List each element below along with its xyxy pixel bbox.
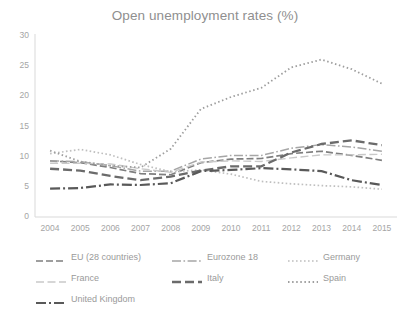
x-tick-label: 2013 (305, 223, 339, 233)
legend-label: Eurozone 18 (207, 252, 258, 262)
x-tick-label: 2007 (124, 223, 158, 233)
legend-item[interactable]: Eurozone 18 (172, 246, 258, 267)
legend-label: EU (28 countries) (71, 252, 141, 262)
chart-legend: EU (28 countries)Eurozone 18GermanyFranc… (36, 246, 396, 309)
legend-item[interactable]: Italy (172, 267, 224, 288)
x-tick-label: 2008 (154, 223, 188, 233)
legend-item[interactable]: Spain (288, 267, 346, 288)
legend-item[interactable]: France (36, 267, 99, 288)
legend-row: FranceItalySpain (36, 267, 396, 288)
y-tick-label: 25 (9, 60, 29, 70)
legend-swatch-icon (36, 252, 66, 262)
legend-item[interactable]: Germany (288, 246, 360, 267)
x-tick-label: 2004 (33, 223, 67, 233)
legend-swatch-icon (36, 294, 66, 304)
legend-row: United Kingdom (36, 288, 396, 309)
x-tick-label: 2015 (365, 223, 399, 233)
legend-item[interactable]: United Kingdom (36, 288, 135, 309)
y-tick-label: 15 (9, 121, 29, 131)
legend-label: United Kingdom (71, 294, 135, 304)
series-line (50, 168, 382, 189)
legend-swatch-icon (172, 273, 202, 283)
figure-caption (0, 308, 410, 317)
legend-label: Italy (207, 273, 224, 283)
legend-label: Spain (323, 273, 346, 283)
series-line (50, 145, 382, 172)
y-tick-label: 30 (9, 30, 29, 40)
x-tick-label: 2010 (214, 223, 248, 233)
legend-swatch-icon (172, 252, 202, 262)
legend-label: France (71, 273, 99, 283)
x-tick-label: 2006 (93, 223, 127, 233)
y-tick-label: 0 (9, 211, 29, 221)
x-tick-label: 2014 (335, 223, 369, 233)
legend-label: Germany (323, 252, 360, 262)
chart-container: Open unemployment rates (%) 051015202530… (0, 0, 410, 317)
legend-swatch-icon (288, 252, 318, 262)
series-line (50, 60, 382, 168)
x-tick-label: 2011 (244, 223, 278, 233)
series-line (50, 140, 382, 180)
legend-swatch-icon (36, 273, 66, 283)
series-line (50, 149, 382, 189)
legend-item[interactable]: EU (28 countries) (36, 246, 141, 267)
y-tick-label: 10 (9, 151, 29, 161)
legend-swatch-icon (288, 273, 318, 283)
x-tick-label: 2009 (184, 223, 218, 233)
y-tick-label: 20 (9, 90, 29, 100)
x-tick-label: 2012 (274, 223, 308, 233)
x-tick-label: 2005 (63, 223, 97, 233)
y-tick-label: 5 (9, 181, 29, 191)
legend-row: EU (28 countries)Eurozone 18Germany (36, 246, 396, 267)
